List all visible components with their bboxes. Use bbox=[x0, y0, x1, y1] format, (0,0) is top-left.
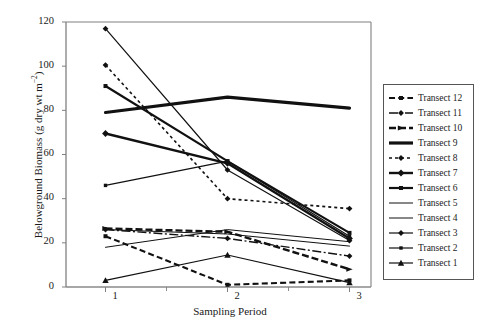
legend-line-swatch bbox=[388, 152, 414, 164]
legend-item-label: Transect 9 bbox=[418, 137, 458, 149]
legend-line-swatch bbox=[388, 242, 414, 254]
series-transect-10 bbox=[102, 226, 352, 272]
y-axis-title-tail: ) bbox=[32, 72, 44, 76]
legend-item-transect-12[interactable]: Transect 12 bbox=[384, 90, 473, 105]
legend-item-transect-1[interactable]: Transect 1 bbox=[384, 255, 473, 270]
legend-line-swatch bbox=[388, 92, 414, 104]
series-transect-1 bbox=[102, 252, 352, 286]
legend-item-transect-7[interactable]: Transect 7 bbox=[384, 165, 473, 180]
legend-item-label: Transect 11 bbox=[418, 107, 462, 119]
x-tick-label-3: 3 bbox=[349, 290, 369, 301]
legend-item-label: Transect 6 bbox=[418, 182, 458, 194]
legend-line-swatch bbox=[388, 227, 414, 239]
legend-line-swatch bbox=[388, 167, 414, 179]
legend-item-label: Transect 1 bbox=[418, 257, 458, 269]
chart-figure: 120 100 80 60 40 20 0 1 2 3 Sampling Per… bbox=[0, 0, 479, 330]
legend-item-label: Transect 5 bbox=[418, 197, 458, 209]
legend-item-transect-11[interactable]: Transect 11 bbox=[384, 105, 473, 120]
legend-line-swatch bbox=[388, 107, 414, 119]
legend-item-label: Transect 4 bbox=[418, 212, 458, 224]
legend-item-label: Transect 12 bbox=[418, 92, 462, 104]
series-transect-3 bbox=[103, 26, 353, 244]
series-transect-8 bbox=[103, 62, 353, 211]
series-transect-7 bbox=[102, 130, 353, 242]
legend-line-swatch bbox=[388, 212, 414, 224]
legend-item-label: Transect 3 bbox=[418, 227, 458, 239]
legend-item-label: Transect 8 bbox=[418, 152, 458, 164]
legend-item-label: Transect 10 bbox=[418, 122, 462, 134]
legend-item-transect-10[interactable]: Transect 10 bbox=[384, 120, 473, 135]
legend-item-transect-9[interactable]: Transect 9 bbox=[384, 135, 473, 150]
y-axis-title-exponent: −2 bbox=[30, 75, 39, 83]
series-layer bbox=[102, 26, 353, 287]
legend-line-swatch bbox=[388, 257, 414, 269]
series-transect-9 bbox=[106, 97, 350, 112]
x-tick-label-1: 1 bbox=[105, 290, 125, 301]
legend: Transect 12Transect 11Transect 10Transec… bbox=[383, 84, 474, 280]
legend-item-label: Transect 7 bbox=[418, 167, 458, 179]
legend-line-swatch bbox=[388, 137, 414, 149]
y-tick-label-0: 0 bbox=[26, 280, 54, 291]
legend-line-swatch bbox=[388, 197, 414, 209]
y-axis-title-main: Belowground Biomass (g dry wt m bbox=[32, 83, 44, 238]
legend-item-transect-3[interactable]: Transect 3 bbox=[384, 225, 473, 240]
legend-line-swatch bbox=[388, 182, 414, 194]
legend-item-label: Transect 2 bbox=[418, 242, 458, 254]
legend-item-transect-2[interactable]: Transect 2 bbox=[384, 240, 473, 255]
x-tick-label-2: 2 bbox=[227, 290, 247, 301]
y-tick-label-120: 120 bbox=[26, 15, 54, 26]
legend-item-transect-8[interactable]: Transect 8 bbox=[384, 150, 473, 165]
y-axis-title: Belowground Biomass (g dry wt m−2) bbox=[30, 40, 44, 270]
legend-line-swatch bbox=[388, 122, 414, 134]
legend-item-transect-5[interactable]: Transect 5 bbox=[384, 195, 473, 210]
x-axis-title: Sampling Period bbox=[110, 305, 350, 317]
legend-item-transect-6[interactable]: Transect 6 bbox=[384, 180, 473, 195]
legend-item-transect-4[interactable]: Transect 4 bbox=[384, 210, 473, 225]
